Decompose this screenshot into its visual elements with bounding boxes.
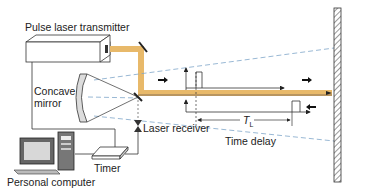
transmitter-label: Pulse laser transmitter [25, 22, 129, 33]
concave-mirror-label-line2: mirror [34, 98, 61, 109]
target-wall [334, 8, 341, 182]
outgoing-pulse-waveform [186, 68, 284, 90]
laser-receiver [134, 120, 142, 154]
outgoing-beam [110, 46, 332, 96]
tl-subscript: L [249, 121, 253, 128]
return-pulse-waveform [186, 100, 310, 112]
personal-computer-label: Personal computer [7, 177, 95, 188]
personal-computer [14, 132, 74, 174]
concave-mirror-label-line1: Concave [34, 86, 75, 97]
pulse-laser-transmitter [26, 35, 110, 62]
time-delay-label: Time delay [225, 136, 276, 147]
laser-receiver-label: Laser receiver [143, 123, 210, 134]
timer-label: Timer [94, 163, 120, 174]
timer [92, 147, 128, 159]
tl-label: TL [243, 115, 253, 128]
